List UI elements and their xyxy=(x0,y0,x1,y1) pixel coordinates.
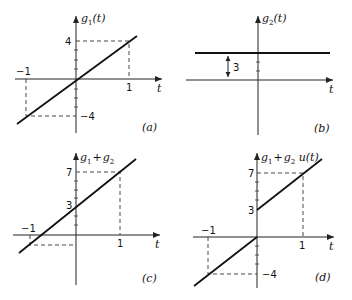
x-tick-1: 1 xyxy=(299,240,305,251)
x-tick-neg1: −1 xyxy=(16,66,31,77)
y-tick-neg4: −4 xyxy=(262,269,277,280)
y-tick-neg4: −4 xyxy=(80,111,95,122)
y-axis-label: g1(t) xyxy=(81,12,106,27)
t-axis-label: t xyxy=(329,83,334,96)
ramp-segment-negative xyxy=(194,237,257,286)
guide-dashed-lower xyxy=(26,79,76,116)
guide-dashed-lower xyxy=(30,235,76,245)
t-axis-label: t xyxy=(329,240,334,253)
panel-d: 7 3 −4 −1 1 t g1+g2 u(t) (d) xyxy=(193,151,334,288)
x-tick-neg1: −1 xyxy=(201,225,216,236)
x-tick-neg1: −1 xyxy=(21,223,36,234)
panel-c: 7 3 −1 1 t g1+g2 (c) xyxy=(13,151,160,285)
y-tick-4: 4 xyxy=(65,36,71,47)
panel-a: 4 −4 −1 1 t g1(t) (a) xyxy=(15,12,162,134)
t-axis-label: t xyxy=(155,238,160,251)
panel-b: 3 t g2(t) (b) xyxy=(186,12,334,135)
y-tick-3: 3 xyxy=(66,200,72,211)
caption-d: (d) xyxy=(315,271,331,284)
ramp-line xyxy=(17,36,137,124)
caption-b: (b) xyxy=(314,122,330,135)
caption-c: (c) xyxy=(142,272,157,285)
y-tick-3: 3 xyxy=(248,205,254,216)
signal-diagram: 4 −4 −1 1 t g1(t) (a) 3 t g2(t) (b) xyxy=(0,0,352,300)
y-tick-7: 7 xyxy=(248,168,254,179)
x-tick-1: 1 xyxy=(117,238,123,249)
height-label-3: 3 xyxy=(233,62,239,73)
guide-dashed-upper xyxy=(76,172,120,235)
t-axis-label: t xyxy=(157,82,162,95)
ramp-segment-positive xyxy=(257,159,322,210)
x-tick-1: 1 xyxy=(126,82,132,93)
y-axis-label: g1+g2 u(t) xyxy=(261,151,319,166)
caption-a: (a) xyxy=(142,121,157,134)
y-tick-7: 7 xyxy=(66,167,72,178)
y-axis-label: g1+g2 xyxy=(80,151,114,166)
y-axis-label: g2(t) xyxy=(262,12,287,27)
